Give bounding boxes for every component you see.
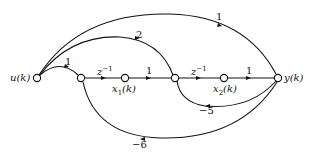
gain-u-n1: 1: [65, 57, 71, 67]
node-label-x1: x1(k): [112, 84, 136, 97]
node-n2: [171, 74, 178, 81]
gain-x1-n2: 1: [146, 66, 152, 76]
node-x1: [121, 74, 128, 81]
gain-x2-y: 1: [246, 66, 252, 76]
node-label-y: y(k): [284, 73, 304, 83]
gain-y-n1: −6: [132, 140, 147, 150]
gain-u-n2: 2: [136, 30, 142, 40]
gain-u-y: 1: [216, 12, 222, 22]
gain-y-n2: −5: [199, 106, 214, 116]
node-label-u: u(k): [10, 73, 30, 83]
edge-u-y: [39, 14, 276, 75]
node-n1: [77, 74, 84, 81]
node-y: [274, 74, 281, 81]
graph-edges: [0, 0, 313, 153]
gain-z-inv-1: z−1: [97, 66, 113, 77]
node-x2: [220, 74, 227, 81]
signal-flow-graph: u(k) y(k) x1(k) x2(k) z−1 z−1 1 2 1 1 1 …: [0, 0, 313, 153]
gain-z-inv-2: z−1: [191, 66, 207, 77]
node-u: [33, 74, 40, 81]
node-label-x2: x2(k): [213, 84, 237, 97]
